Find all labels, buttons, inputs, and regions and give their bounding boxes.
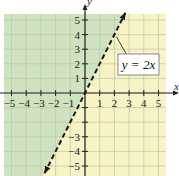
y-tick-label: −4 <box>68 145 80 157</box>
y-tick-label: −3 <box>68 131 80 143</box>
x-tick-label: −3 <box>33 97 45 109</box>
coordinate-plane-chart: −5−4−3−2−11234554321−3−4−5yxy = 2x <box>0 0 179 176</box>
x-tick-label: −2 <box>48 97 60 109</box>
x-tick-label: −5 <box>4 97 16 109</box>
y-tick-label: −5 <box>68 160 80 172</box>
x-tick-label: 1 <box>97 97 103 109</box>
x-tick-label: −4 <box>18 97 30 109</box>
x-tick-label: 5 <box>156 97 162 109</box>
y-tick-label: 5 <box>75 14 81 26</box>
x-tick-label: 2 <box>112 97 118 109</box>
x-tick-label: −1 <box>62 97 74 109</box>
x-tick-label: 4 <box>141 97 147 109</box>
y-tick-label: 3 <box>75 43 81 55</box>
y-axis-label: y <box>86 0 92 7</box>
x-axis-label: x <box>173 80 179 92</box>
equation-label: y = 2x <box>120 57 156 72</box>
y-tick-label: 4 <box>75 29 81 41</box>
x-tick-label: 3 <box>126 97 132 109</box>
y-tick-label: 2 <box>75 58 81 70</box>
y-tick-label: 1 <box>75 72 81 84</box>
